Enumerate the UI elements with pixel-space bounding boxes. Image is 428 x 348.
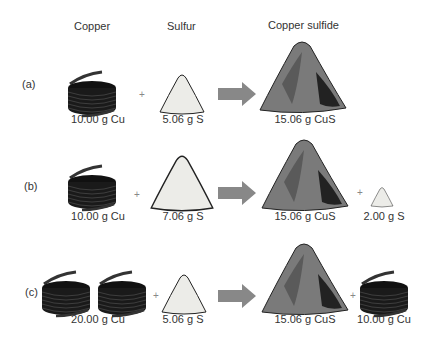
row-c-label: (c) <box>25 286 38 298</box>
row-c-copper-mass: 20.00 g Cu <box>68 313 128 325</box>
row-c-leftover-mass: 10.00 g Cu <box>356 313 412 325</box>
row-a-sulfur-mass: 5.06 g S <box>158 113 208 125</box>
row-b-sulfur-mass: 7.06 g S <box>158 210 208 222</box>
row-a-copper-mass: 10.00 g Cu <box>68 113 128 125</box>
plus-sign: + <box>350 290 356 301</box>
plus-sign: + <box>139 89 145 100</box>
plus-sign: + <box>153 290 159 301</box>
row-b-leftover-mass: 2.00 g S <box>362 210 406 222</box>
row-b-copper-mass: 10.00 g Cu <box>68 210 128 222</box>
plus-sign: + <box>134 189 140 200</box>
row-b-product-mass: 15.06 g CuS <box>270 210 340 222</box>
plus-sign: + <box>357 187 363 198</box>
header-copper-sulfide: Copper sulfide <box>268 19 339 31</box>
row-b-label: (b) <box>24 180 37 192</box>
header-sulfur: Sulfur <box>167 20 196 32</box>
row-c-product-mass: 15.06 g CuS <box>270 313 340 325</box>
row-a-product-mass: 15.06 g CuS <box>270 113 340 125</box>
row-a-label: (a) <box>22 78 35 90</box>
row-c-sulfur-mass: 5.06 g S <box>158 313 208 325</box>
header-copper: Copper <box>74 20 110 32</box>
